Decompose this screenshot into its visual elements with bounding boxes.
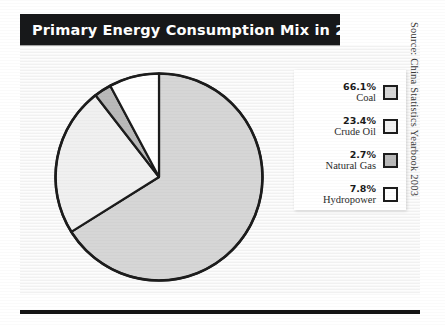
legend-item[interactable]: 23.4% Crude Oil <box>334 116 398 138</box>
legend-item-label: Coal <box>343 92 376 103</box>
legend-item-percent: 2.7% <box>326 150 376 160</box>
legend-item-label: Natural Gas <box>326 160 376 171</box>
legend-item[interactable]: 66.1% Coal <box>343 82 398 104</box>
legend-item-percent: 23.4% <box>334 116 376 126</box>
legend-swatch-crude-oil <box>383 119 398 134</box>
legend-item-percent: 66.1% <box>343 82 376 92</box>
page-title: Primary Energy Consumption Mix in 2002 <box>20 22 376 38</box>
legend-item[interactable]: 2.7% Natural Gas <box>326 150 398 172</box>
legend-swatch-coal <box>383 85 398 100</box>
pie-chart <box>52 70 266 284</box>
source-note: Source: China Statistics Yearbook 2003 <box>406 22 420 246</box>
bottom-rule <box>20 310 420 314</box>
legend-item-label: Hydropower <box>323 194 376 205</box>
legend-swatch-hydropower <box>383 187 398 202</box>
legend-item-percent: 7.8% <box>323 184 376 194</box>
legend-item-label: Crude Oil <box>334 126 376 137</box>
legend: 66.1% Coal 23.4% Crude Oil 2.7% Natural … <box>294 70 406 210</box>
figure-plate: Primary Energy Consumption Mix in 2002 6… <box>0 0 445 325</box>
legend-item-text: 23.4% Crude Oil <box>334 116 376 138</box>
legend-item-text: 7.8% Hydropower <box>323 184 376 206</box>
chart-title-bar: Primary Energy Consumption Mix in 2002 <box>20 14 340 45</box>
legend-item-text: 66.1% Coal <box>343 82 376 104</box>
legend-swatch-natural-gas <box>383 153 398 168</box>
pie-chart-svg <box>52 70 266 284</box>
legend-item[interactable]: 7.8% Hydropower <box>323 184 398 206</box>
legend-item-text: 2.7% Natural Gas <box>326 150 376 172</box>
